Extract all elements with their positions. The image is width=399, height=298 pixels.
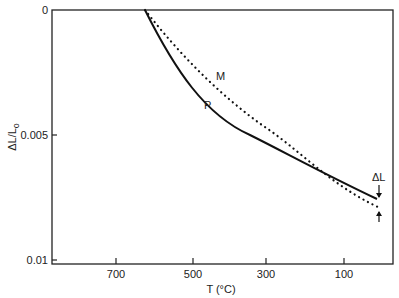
series-m-line <box>145 10 380 208</box>
y-tick-0: 0 <box>42 4 48 16</box>
arrow-down-icon <box>376 193 382 198</box>
label-m: M <box>216 70 225 82</box>
delta-l-label: ΔL <box>372 171 385 183</box>
y-tick-001: 0.01 <box>27 254 48 266</box>
label-p: P <box>204 99 211 111</box>
chart: 0 0.005 0.01 700 500 300 100 T (°C) ΔL/L… <box>0 0 399 298</box>
x-tick-500: 500 <box>184 268 202 280</box>
series-p-line <box>145 10 377 199</box>
y-axis-label: ΔL/Lo <box>6 123 21 151</box>
y-tick-0005: 0.005 <box>20 129 48 141</box>
x-tick-300: 300 <box>257 268 275 280</box>
plot-frame <box>52 10 393 264</box>
x-tick-100: 100 <box>335 268 353 280</box>
x-axis-label: T (°C) <box>206 283 235 295</box>
x-tick-700: 700 <box>107 268 125 280</box>
arrow-up-icon <box>376 211 382 216</box>
